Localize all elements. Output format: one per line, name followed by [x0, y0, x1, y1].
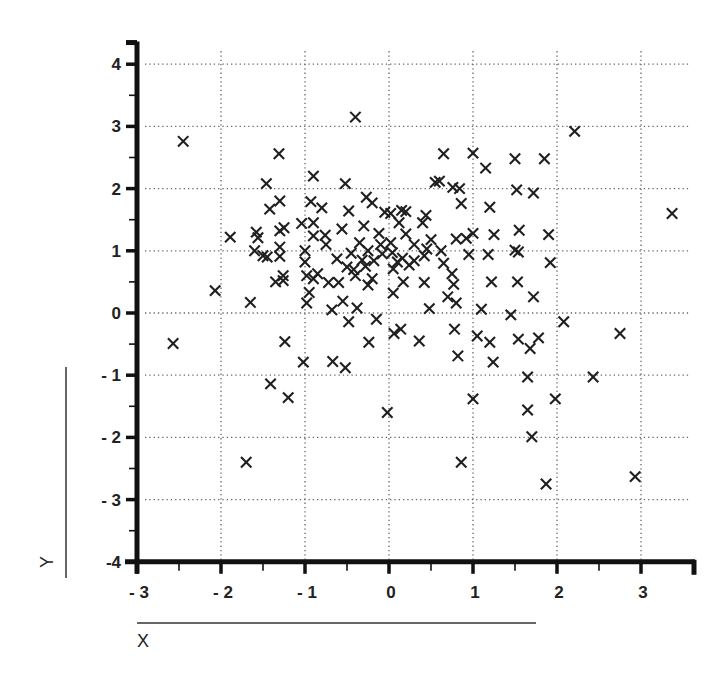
data-point-x-marker [245, 297, 255, 307]
data-point-x-marker [512, 277, 522, 287]
y-tick-label: 1 [112, 242, 121, 261]
data-point-x-marker [343, 317, 353, 327]
x-tick-label: - 2 [213, 583, 233, 602]
data-point-x-marker [337, 224, 347, 234]
data-point-x-marker [346, 248, 356, 258]
data-point-x-marker [485, 202, 495, 212]
data-point-x-marker [461, 233, 471, 243]
data-point-x-marker [424, 303, 434, 313]
x-axis-title: X [137, 631, 149, 651]
data-point-x-marker [489, 229, 499, 239]
data-point-x-marker [168, 338, 178, 348]
data-point-x-marker [350, 112, 360, 122]
data-point-x-marker [323, 277, 333, 287]
data-point-x-marker [241, 457, 251, 467]
y-tick-label: -4 [106, 553, 122, 572]
data-point-x-marker [321, 239, 331, 249]
data-point-x-marker [279, 223, 289, 233]
data-point-x-marker [225, 232, 235, 242]
data-point-x-marker [352, 303, 362, 313]
data-point-x-marker [333, 277, 343, 287]
x-tick-label: 1 [470, 583, 479, 602]
data-point-x-marker [451, 234, 461, 244]
y-tick-label: 0 [112, 304, 121, 323]
data-point-x-marker [367, 198, 377, 208]
data-point-x-marker [541, 479, 551, 489]
data-point-x-marker [559, 317, 569, 327]
data-point-x-marker [449, 324, 459, 334]
data-point-x-marker [394, 218, 404, 228]
data-point-x-marker [506, 310, 516, 320]
data-point-x-marker [308, 231, 318, 241]
data-point-x-marker [265, 379, 275, 389]
data-point-x-marker [488, 357, 498, 367]
data-point-x-marker [569, 126, 579, 136]
data-point-x-marker [385, 238, 395, 248]
data-point-x-marker [265, 204, 275, 214]
y-tick-label: 2 [112, 180, 121, 199]
data-point-x-marker [409, 256, 419, 266]
data-point-x-marker [261, 178, 271, 188]
data-point-x-marker [275, 242, 285, 252]
data-point-x-marker [522, 372, 532, 382]
data-point-x-marker [419, 277, 429, 287]
data-point-x-marker [363, 280, 373, 290]
data-point-x-marker [543, 229, 553, 239]
data-point-x-marker [398, 277, 408, 287]
scatter-chart: -4- 3- 2- 101234- 3- 2- 10123 Y X [0, 0, 724, 678]
data-point-x-marker [327, 305, 337, 315]
data-point-x-marker [483, 249, 493, 259]
data-point-x-marker [312, 269, 322, 279]
data-point-x-marker [298, 357, 308, 367]
data-point-x-marker [178, 136, 188, 146]
y-tick-label: - 1 [101, 366, 121, 385]
data-point-x-marker [280, 336, 290, 346]
data-point-x-marker [308, 171, 318, 181]
data-point-x-marker [332, 254, 342, 264]
data-point-x-marker [453, 351, 463, 361]
data-point-x-marker [615, 328, 625, 338]
data-point-x-marker [382, 407, 392, 417]
y-axis-title: Y [37, 556, 57, 568]
x-tick-label: - 1 [297, 583, 317, 602]
data-point-x-marker [283, 392, 293, 402]
y-tick-label: - 3 [101, 491, 121, 510]
data-point-x-marker [550, 394, 560, 404]
data-point-x-marker [510, 154, 520, 164]
data-point-x-marker [448, 279, 458, 289]
data-point-x-marker [364, 337, 374, 347]
x-tick-label: 3 [638, 583, 647, 602]
y-tick-label: - 2 [101, 428, 121, 447]
axes [125, 42, 695, 575]
data-point-x-marker [409, 239, 419, 249]
data-point-x-marker [456, 457, 466, 467]
data-point-x-marker [513, 247, 523, 257]
data-point-x-marker [447, 269, 457, 279]
data-point-x-marker [513, 334, 523, 344]
data-point-x-marker [525, 343, 535, 353]
data-point-x-marker [371, 314, 381, 324]
data-point-x-marker [275, 251, 285, 261]
data-point-x-marker [486, 277, 496, 287]
data-point-x-marker [667, 208, 677, 218]
data-point-x-marker [514, 225, 524, 235]
data-point-x-marker [340, 178, 350, 188]
data-point-x-marker [301, 298, 311, 308]
x-tick-label: - 3 [129, 583, 149, 602]
data-point-x-marker [274, 149, 284, 159]
data-point-x-marker [528, 188, 538, 198]
data-point-x-marker [630, 471, 640, 481]
data-points [168, 112, 677, 489]
data-point-x-marker [545, 257, 555, 267]
data-point-x-marker [275, 196, 285, 206]
data-point-x-marker [443, 292, 453, 302]
data-point-x-marker [317, 203, 327, 213]
data-point-x-marker [533, 333, 543, 343]
data-point-x-marker [485, 337, 495, 347]
data-point-x-marker [456, 198, 466, 208]
data-point-x-marker [375, 239, 385, 249]
x-tick-label: 2 [554, 583, 563, 602]
data-point-x-marker [426, 234, 436, 244]
y-tick-label: 3 [112, 117, 121, 136]
data-point-x-marker [588, 372, 598, 382]
